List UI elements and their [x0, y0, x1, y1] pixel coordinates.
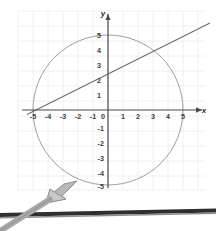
y-tick-label: -1 — [98, 124, 104, 133]
x-axis-label: x — [201, 106, 207, 115]
x-tick-label: -4 — [45, 112, 51, 121]
y-tick-label: 5 — [97, 31, 101, 40]
origin-label: 0 — [101, 112, 105, 121]
x-tick-label: -3 — [60, 112, 66, 121]
y-tick-label: 2 — [97, 76, 101, 85]
y-tick-label: 1 — [97, 91, 101, 100]
x-tick-label: -1 — [90, 112, 96, 121]
y-tick-label: 3 — [97, 61, 101, 70]
y-tick-label: -2 — [98, 139, 104, 148]
x-tick-label: 4 — [166, 112, 170, 121]
x-tick-label: -2 — [75, 112, 81, 121]
y-tick-label: -3 — [98, 154, 104, 163]
coordinate-plane-figure: x y -5 -4 -3 -2 -1 0 1 2 3 4 5 5 4 3 2 1… — [0, 0, 216, 231]
x-tick-label: 1 — [121, 112, 125, 121]
x-tick-label: 3 — [151, 112, 155, 121]
y-axis-label: y — [100, 9, 106, 18]
y-tick-label: -4 — [98, 169, 104, 178]
y-tick-label: -5 — [98, 182, 104, 191]
x-tick-label: 2 — [136, 112, 140, 121]
y-tick-label: 4 — [97, 46, 101, 55]
x-tick-label: -5 — [30, 112, 36, 121]
x-tick-label: 5 — [181, 112, 185, 121]
